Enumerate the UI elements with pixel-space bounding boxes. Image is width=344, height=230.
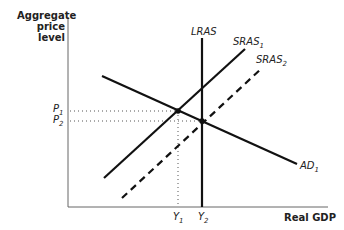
sras2-curve [122, 68, 262, 198]
y-axis-label-line2: price level [17, 21, 65, 43]
y2-tick-label: Y2 [198, 211, 209, 225]
y-axis-label: Aggregate price level [17, 10, 65, 43]
y-axis-label-line1: Aggregate [17, 10, 65, 21]
sras1-curve [104, 49, 245, 178]
p2-tick-label: P2 [53, 114, 64, 128]
lras-label: LRAS [191, 26, 217, 37]
equilibrium-1 [175, 108, 181, 114]
sras1-label: SRAS1 [233, 36, 264, 50]
sras2-label: SRAS2 [256, 54, 287, 68]
x-axis-label: Real GDP [284, 212, 336, 223]
y1-tick-label: Y1 [173, 211, 184, 225]
equilibrium-2 [199, 118, 205, 124]
ad1-label: AD1 [300, 160, 319, 174]
